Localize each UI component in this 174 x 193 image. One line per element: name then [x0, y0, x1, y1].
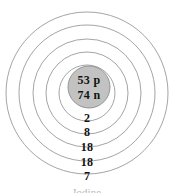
shell-5-electron-count: 7 [0, 170, 174, 182]
bohr-model-diagram: 53 p 74 n 2 8 18 18 7 Iodine [0, 0, 174, 193]
shell-4-electron-count: 18 [0, 156, 174, 168]
proton-count-label: 53 p [78, 73, 101, 87]
shell-3-electron-count: 18 [0, 141, 174, 153]
shell-1-electron-count: 2 [0, 112, 174, 124]
neutron-count-label: 74 n [78, 88, 101, 102]
element-name-caption: Iodine [0, 186, 174, 193]
shell-2-electron-count: 8 [0, 126, 174, 138]
nucleus-labels: 53 p 74 n [68, 66, 110, 108]
